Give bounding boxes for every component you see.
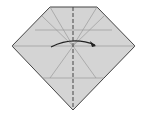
origami-diagram <box>0 0 143 117</box>
